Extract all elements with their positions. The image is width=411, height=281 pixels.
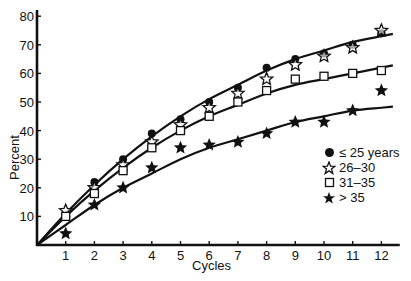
x-tick-label: 12 — [374, 248, 388, 263]
x-tick-label: 1 — [62, 248, 69, 263]
y-tick-label: 80 — [20, 9, 34, 24]
legend-item-le25: ≤ 25 years — [322, 145, 400, 160]
legend-item-31-35: 31–35 — [322, 175, 400, 190]
open-square-icon — [148, 144, 156, 152]
x-axis-label: Cycles — [192, 258, 231, 273]
fitted-curves — [37, 34, 393, 245]
filled-star-icon — [289, 115, 302, 128]
x-tick-label: 3 — [119, 248, 126, 263]
open-square-icon — [62, 212, 70, 220]
open-square-icon — [349, 69, 357, 77]
filled-star-icon — [174, 141, 187, 154]
y-tick-label: 10 — [20, 209, 34, 224]
legend-label: 31–35 — [339, 175, 375, 190]
filled-circle-icon — [263, 64, 271, 72]
legend-item-26-30: 26–30 — [322, 160, 400, 175]
x-tick-label: 10 — [317, 248, 331, 263]
x-tick-label: 8 — [263, 248, 270, 263]
open-star-icon — [232, 87, 244, 99]
open-star-icon — [375, 24, 387, 36]
filled-star-icon — [375, 84, 388, 97]
x-tick-label: 4 — [148, 248, 155, 263]
x-tick-label: 9 — [292, 248, 299, 263]
x-tick-label: 2 — [91, 248, 98, 263]
open-square-icon — [119, 167, 127, 175]
open-square-icon — [234, 98, 242, 106]
y-axis-label: Percent — [7, 135, 22, 180]
chart-plot: 1020304050607080123456789101112 — [0, 0, 411, 281]
data-points — [59, 24, 388, 239]
open-star-icon — [322, 161, 336, 175]
open-square-icon — [291, 75, 299, 83]
filled-star-icon — [346, 104, 359, 117]
legend-label: ≤ 25 years — [339, 145, 400, 160]
legend-label: > 35 — [339, 190, 365, 205]
open-square-icon — [322, 177, 336, 188]
open-star-icon — [203, 101, 215, 113]
y-tick-label: 60 — [20, 66, 34, 81]
open-square-icon — [90, 190, 98, 198]
open-star-icon — [260, 73, 272, 85]
x-tick-label: 7 — [234, 248, 241, 263]
open-square-icon — [263, 87, 271, 95]
legend-label: 26–30 — [339, 160, 375, 175]
filled-circle-icon — [322, 147, 336, 158]
open-square-icon — [205, 112, 213, 120]
open-square-icon — [320, 72, 328, 80]
open-square-icon — [177, 127, 185, 135]
legend: ≤ 25 years 26–30 31–35 > 35 — [322, 145, 400, 205]
y-tick-label: 70 — [20, 38, 34, 53]
filled-star-icon — [322, 191, 336, 205]
fit-curve — [37, 34, 393, 245]
y-tick-label: 20 — [20, 181, 34, 196]
x-tick-label: 11 — [346, 248, 360, 263]
x-tick-label: 5 — [177, 248, 184, 263]
axes: 1020304050607080123456789101112 — [20, 9, 400, 263]
open-square-icon — [377, 67, 385, 75]
y-tick-label: 50 — [20, 95, 34, 110]
legend-item-gt35: > 35 — [322, 190, 400, 205]
